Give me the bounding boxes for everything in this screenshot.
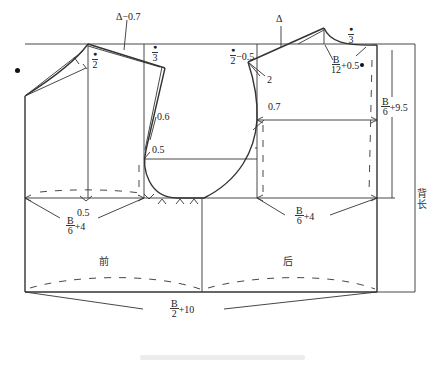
armhole-chevron-3: [176, 199, 184, 204]
total-width-leader-l: [25, 292, 143, 309]
back-width-leader-r: [330, 198, 377, 215]
front-armhole-05-label: 0.5: [152, 145, 165, 155]
total-width-leader-r: [224, 292, 377, 309]
bullet-marker-icon: [360, 63, 364, 67]
bullet-marker-icon: [15, 68, 20, 73]
front-neck-tick-1: [74, 57, 79, 64]
figure-caption: [140, 355, 305, 360]
back-07-leader: [253, 120, 264, 130]
delta-leader: [124, 20, 127, 50]
back-armhole-dashed-r: [369, 60, 372, 194]
front-panel-label: 前: [99, 253, 109, 268]
pattern-drawing: [0, 0, 441, 366]
front-width-leader-l: [25, 198, 60, 218]
back-armhole-depth-fraction: B 6 +9.5: [381, 97, 408, 117]
front-chest-third-fraction: ● 3: [152, 43, 158, 63]
front-hem-dashed: [30, 278, 200, 289]
front-shoulder-drop-label: Δ−0.7: [116, 12, 141, 22]
front-dart-notch: [80, 196, 92, 201]
front-armhole-curve-inner: [145, 67, 162, 150]
armhole-chevron-4: [190, 199, 198, 204]
armhole-chevron-2: [158, 199, 166, 204]
front-armhole-curve: [145, 62, 257, 198]
front-neck-width-fraction: ● 2: [92, 50, 98, 70]
back-shoulder-line: [248, 28, 324, 62]
front-armhole-06-label: 0.6: [157, 112, 170, 122]
back-width-leader-l: [257, 198, 285, 215]
back-armhole-07-label: 0.7: [268, 102, 281, 112]
front-width-leader-r: [98, 198, 144, 218]
back-neck-depth-fraction: ● 3: [348, 25, 354, 45]
back-hem-dashed: [208, 278, 375, 289]
back-shoulder-delta-label: Δ: [276, 14, 282, 24]
back-width-fraction: B 6 +4: [295, 206, 314, 226]
back-panel-label: 后: [283, 253, 293, 268]
total-width-fraction: B 2 +10: [170, 299, 194, 319]
back-length-label: 背长: [416, 188, 427, 210]
back-shoulder-line-2: [298, 30, 324, 44]
front-width-fraction: B 6 +4: [66, 216, 85, 236]
back-shoulder-extension-label: 2: [267, 75, 272, 85]
front-chest-dashed: [40, 190, 140, 193]
back-neck-fraction: ● 2 −0.5: [230, 46, 254, 66]
back-neck-width-fraction: B 12 +0.5: [331, 55, 364, 75]
